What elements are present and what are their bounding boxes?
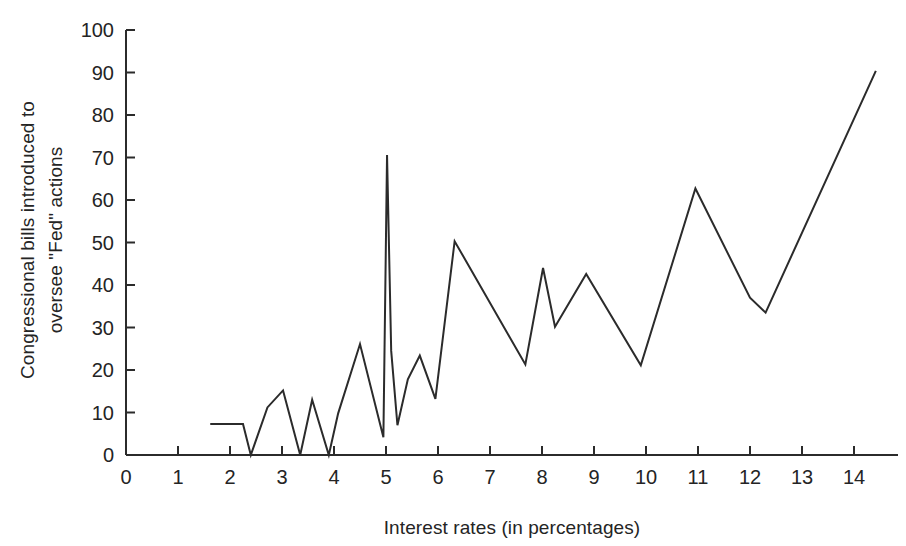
y-tick-label: 70 [92,147,114,169]
y-tick-label: 30 [92,317,114,339]
x-axis-ticks: 01234567891011121314 [120,446,865,488]
x-tick-label: 2 [224,466,235,488]
x-tick-label: 13 [791,466,813,488]
x-axis-title: Interest rates (in percentages) [384,517,641,538]
chart-figure: Congressional bills introduced to overse… [0,0,906,546]
x-tick-label: 8 [536,466,547,488]
y-tick-label: 80 [92,104,114,126]
y-tick-label: 0 [103,444,114,466]
x-tick-label: 11 [688,466,709,488]
data-series-line [210,71,876,455]
x-tick-label: 7 [484,466,495,488]
y-tick-label: 20 [92,359,114,381]
x-tick-label: 3 [276,466,287,488]
y-axis-title-line2: oversee "Fed" actions [45,147,66,334]
y-axis-title: Congressional bills introduced to overse… [17,101,66,379]
y-tick-label: 100 [81,19,114,41]
x-tick-label: 14 [843,466,865,488]
x-tick-label: 10 [635,466,657,488]
x-tick-label: 5 [380,466,391,488]
x-tick-label: 9 [588,466,599,488]
y-tick-label: 90 [92,62,114,84]
x-tick-label: 6 [432,466,443,488]
x-tick-label: 1 [172,466,183,488]
x-tick-label: 0 [120,466,131,488]
y-tick-label: 60 [92,189,114,211]
line-chart-svg: Congressional bills introduced to overse… [0,0,906,546]
y-tick-label: 40 [92,274,114,296]
x-tick-label: 12 [739,466,761,488]
y-tick-label: 10 [92,402,114,424]
y-tick-label: 50 [92,232,114,254]
y-axis-title-line1: Congressional bills introduced to [17,101,38,379]
x-tick-label: 4 [328,466,339,488]
